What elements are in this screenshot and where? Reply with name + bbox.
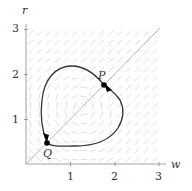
x-tick-label-3: 3 xyxy=(155,171,162,182)
y-tick-label-2: 2 xyxy=(12,69,19,80)
point-label-P: P xyxy=(98,70,105,81)
x-axis-label: w xyxy=(171,159,180,170)
phase-portrait-figure xyxy=(0,0,192,191)
point-label-Q: Q xyxy=(43,148,52,159)
x-tick-label-2: 2 xyxy=(111,171,118,182)
x-tick-label-1: 1 xyxy=(67,171,74,182)
y-tick-label-1: 1 xyxy=(12,114,19,125)
y-axis-label: r xyxy=(22,5,27,16)
y-tick-label-3: 3 xyxy=(12,23,19,34)
